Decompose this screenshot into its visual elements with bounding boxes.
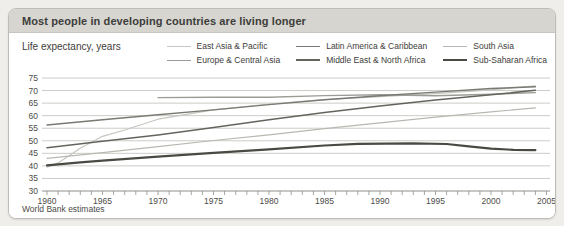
legend-label-east-asia-pacific: East Asia & Pacific <box>197 41 268 51</box>
legend-swatch-south-asia <box>443 46 467 47</box>
legend-item-east-asia-pacific: East Asia & Pacific <box>167 41 281 51</box>
legend-label-middle-east-north-africa: Middle East & North Africa <box>326 55 425 65</box>
legend-item-south-asia: South Asia <box>443 41 547 51</box>
legend-item-latin-america-caribbean: Latin America & Caribbean <box>296 41 427 51</box>
x-tick-label-1980: 1980 <box>260 196 279 206</box>
series-line-europe-central-asia <box>158 93 535 98</box>
legend-label-sub-saharan-africa: Sub-Saharan Africa <box>473 55 547 65</box>
y-tick-label-40: 40 <box>29 161 39 171</box>
source-note: World Bank estimates <box>22 204 105 214</box>
legend-swatch-sub-saharan-africa <box>443 59 467 61</box>
legend-label-europe-central-asia: Europe & Central Asia <box>197 55 281 65</box>
legend-swatch-europe-central-asia <box>167 60 191 61</box>
legend-swatch-east-asia-pacific <box>167 46 191 47</box>
x-tick-label-2000: 2000 <box>482 196 501 206</box>
y-tick-label-75: 75 <box>29 73 39 83</box>
x-tick-label-1985: 1985 <box>315 196 334 206</box>
y-axis-note: Life expectancy, years <box>22 41 121 52</box>
x-tick-label-2005: 2005 <box>537 196 555 206</box>
y-tick-label-30: 30 <box>29 186 39 196</box>
legend-item-middle-east-north-africa: Middle East & North Africa <box>296 55 427 65</box>
x-tick-label-1995: 1995 <box>426 196 445 206</box>
series-line-middle-east-north-africa <box>47 90 535 148</box>
legend-swatch-middle-east-north-africa <box>296 59 320 61</box>
y-tick-label-50: 50 <box>29 136 39 146</box>
legend-item-sub-saharan-africa: Sub-Saharan Africa <box>443 55 547 65</box>
x-tick-label-1975: 1975 <box>204 196 223 206</box>
legend-item-europe-central-asia: Europe & Central Asia <box>167 55 281 65</box>
chart-content-area: 3035404550556065707519601965197019751980… <box>9 33 555 218</box>
y-tick-label-55: 55 <box>29 123 39 133</box>
y-tick-label-45: 45 <box>29 148 39 158</box>
report-panel: Most people in developing countries are … <box>8 8 556 219</box>
y-tick-label-70: 70 <box>29 86 39 96</box>
x-tick-label-1990: 1990 <box>371 196 390 206</box>
series-line-latin-america-caribbean <box>47 87 535 125</box>
chart-title: Most people in developing countries are … <box>22 15 306 27</box>
y-tick-label-60: 60 <box>29 111 39 121</box>
chart-header-row: Life expectancy, years East Asia & Pacif… <box>22 41 547 65</box>
y-tick-label-65: 65 <box>29 98 39 108</box>
x-tick-label-1970: 1970 <box>149 196 168 206</box>
chart-title-bar: Most people in developing countries are … <box>9 9 555 33</box>
legend-label-south-asia: South Asia <box>473 41 514 51</box>
legend-label-latin-america-caribbean: Latin America & Caribbean <box>326 41 427 51</box>
y-tick-label-35: 35 <box>29 173 39 183</box>
series-line-sub-saharan-africa <box>47 143 535 165</box>
chart-legend: East Asia & PacificLatin America & Carib… <box>167 41 547 65</box>
legend-swatch-latin-america-caribbean <box>296 46 320 47</box>
